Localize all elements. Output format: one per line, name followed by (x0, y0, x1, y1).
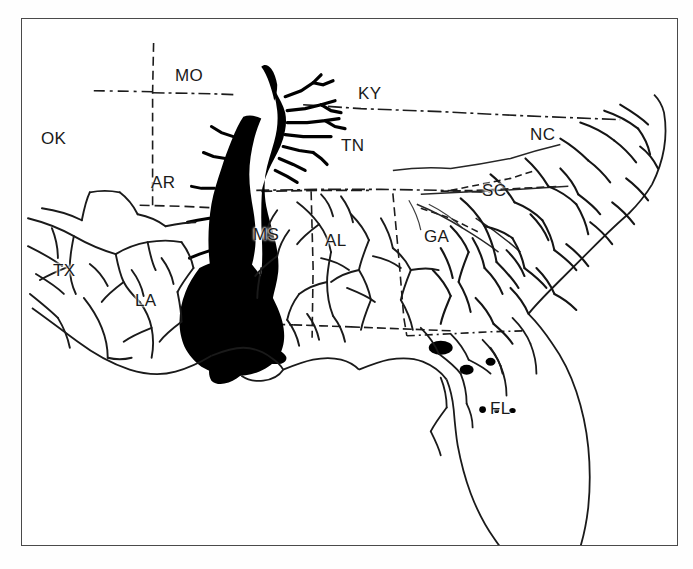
valley-east-fingers (275, 75, 345, 183)
state-outline-lines (393, 145, 568, 253)
border-mo-tn-ky (303, 105, 620, 120)
border-mo-ar (153, 93, 237, 95)
border-tn-nc (451, 170, 536, 190)
border-ok-ar (153, 43, 154, 206)
valley-north-tip (261, 65, 277, 101)
border-ms-al (311, 191, 313, 337)
border-ar-la (140, 205, 222, 208)
coast-ms-al (283, 358, 359, 369)
coast-fl-west (447, 380, 523, 545)
river-network-east (433, 105, 658, 344)
border-ks-ok (94, 91, 153, 92)
border-ms-gulf (293, 325, 351, 327)
coast-fl-east (528, 314, 589, 545)
figure-root: OK MO KY AR TN NC SC MS AL GA TX LA FL (0, 0, 693, 569)
map-frame: OK MO KY AR TN NC SC MS AL GA TX LA FL (21, 18, 678, 546)
river-network-west (28, 191, 195, 359)
outline-tn-nc-ridge (393, 145, 560, 171)
map-drawing (22, 19, 677, 545)
state-border-lines (94, 43, 620, 338)
florida-black-patches (479, 406, 538, 545)
border-al-fl (351, 327, 451, 331)
coast-fl-panhandle (359, 358, 447, 379)
coastline (32, 95, 666, 545)
river-network-central (255, 194, 438, 345)
river-network-florida (421, 318, 537, 455)
border-ar-ms (261, 190, 369, 191)
